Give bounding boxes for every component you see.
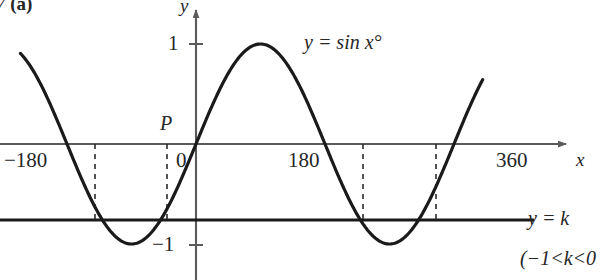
exercise-part-value: (a) bbox=[10, 0, 32, 14]
curve-equation-label: y = sin x° bbox=[304, 32, 382, 52]
k-range-label: (−1<k<0 bbox=[520, 248, 596, 268]
y-axis-label: y bbox=[180, 0, 188, 15]
x-tick-label-0: 0 bbox=[176, 150, 187, 171]
x-tick-label-neg180: −180 bbox=[4, 150, 47, 171]
exercise-number-value: 7 bbox=[0, 0, 6, 14]
x-tick-label-180: 180 bbox=[288, 150, 320, 171]
x-axis-label: x bbox=[576, 150, 584, 169]
line-equation-label: y = k bbox=[528, 208, 569, 228]
point-p-label: P bbox=[160, 113, 172, 133]
sine-graph-figure: 7 (a) y x 1 −1 −180 0 180 360 P y = sin … bbox=[0, 0, 608, 280]
y-tick-label-neg1: −1 bbox=[152, 234, 174, 255]
y-tick-label-1: 1 bbox=[168, 33, 179, 54]
x-tick-label-360: 360 bbox=[496, 150, 528, 171]
exercise-number: 7 (a) bbox=[0, 0, 32, 13]
